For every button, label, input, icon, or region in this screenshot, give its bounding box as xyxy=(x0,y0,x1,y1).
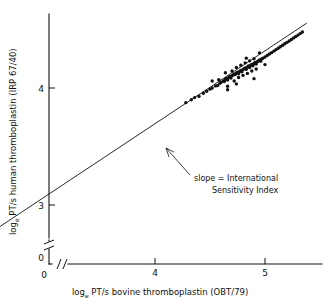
data-point xyxy=(224,71,227,74)
data-point xyxy=(239,63,242,66)
x-axis-title: loge PT/s bovine thromboplastin (OBT/79) xyxy=(72,287,248,299)
data-point xyxy=(263,63,266,66)
data-point xyxy=(226,88,229,91)
x-axis-break-icon xyxy=(57,259,67,269)
data-point xyxy=(252,77,255,80)
data-point xyxy=(241,74,244,77)
data-point xyxy=(237,76,240,79)
data-point xyxy=(197,94,200,97)
data-point xyxy=(250,69,253,72)
data-point xyxy=(202,92,205,95)
y-axis-title-text: loge PT/s human thromboplastin (IRP 67/4… xyxy=(8,48,20,235)
data-point xyxy=(226,85,229,88)
annotation-line-1: slope = International xyxy=(194,174,278,183)
y-origin-label: 0 xyxy=(38,253,44,263)
x-origin-label: 0 xyxy=(41,270,47,280)
chart-figure: 4 3 0 4 5 0 loge PT/s human thromboplast… xyxy=(0,0,335,306)
data-point xyxy=(233,79,236,82)
data-point xyxy=(246,72,249,75)
data-point xyxy=(235,66,238,69)
data-point xyxy=(258,51,261,54)
data-point-group xyxy=(0,30,304,253)
data-point xyxy=(217,78,220,81)
slope-annotation-leader xyxy=(166,148,190,175)
data-point xyxy=(235,82,238,85)
leader-line xyxy=(166,148,190,175)
x-title-log: log xyxy=(72,287,85,297)
data-point xyxy=(193,96,196,99)
data-point xyxy=(230,69,233,72)
x-title-rest: PT/s bovine thromboplastin (OBT/79) xyxy=(89,287,249,297)
data-point xyxy=(244,61,247,64)
data-point xyxy=(248,59,251,62)
data-point xyxy=(205,90,208,93)
data-point xyxy=(184,101,187,104)
y-title-log: log xyxy=(8,222,18,235)
x-tick-label-5: 5 xyxy=(262,268,268,278)
data-point xyxy=(301,30,304,33)
scatter-plot-canvas: 4 3 0 4 5 0 loge PT/s human thromboplast… xyxy=(0,0,335,306)
y-title-rest: PT/s human thromboplastin (IRP 67/40) xyxy=(8,48,18,218)
slope-annotation-text: slope = International Sensitivity Index xyxy=(194,174,278,195)
annotation-line-2: Sensitivity Index xyxy=(212,186,278,195)
x-axis: 4 5 0 xyxy=(41,258,322,280)
data-point xyxy=(190,98,193,101)
data-point xyxy=(211,79,214,82)
data-point xyxy=(211,86,214,89)
x-axis-title-text: loge PT/s bovine thromboplastin (OBT/79) xyxy=(72,287,248,299)
y-tick-label-3: 3 xyxy=(38,201,44,211)
data-point xyxy=(245,56,248,59)
data-point xyxy=(255,67,258,70)
y-axis: 4 3 0 xyxy=(38,14,55,264)
y-tick-label-4: 4 xyxy=(38,84,44,94)
y-axis-title: loge PT/s human thromboplastin (IRP 67/4… xyxy=(8,48,20,235)
data-point xyxy=(252,57,255,60)
x-tick-label-4: 4 xyxy=(152,268,158,278)
